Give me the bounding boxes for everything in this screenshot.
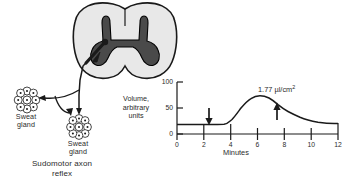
x-tick-label-0: 0 bbox=[169, 141, 185, 148]
volume-annotation: 1.77 µl/cm2 bbox=[258, 84, 295, 94]
x-tick-label-6: 6 bbox=[250, 141, 266, 148]
y-tick-label-0: 0 bbox=[153, 130, 173, 137]
x-tick-label-10: 10 bbox=[303, 141, 319, 148]
stimulus-arrow-down bbox=[205, 108, 212, 125]
sweat-volume-chart bbox=[0, 0, 350, 189]
x-tick-label-8: 8 bbox=[276, 141, 292, 148]
sweat-volume-curve bbox=[177, 96, 338, 125]
volume-annotation-text: 1.77 µl/cm bbox=[258, 85, 292, 94]
x-axis-label: Minutes bbox=[196, 148, 276, 157]
x-tick-label-2: 2 bbox=[196, 141, 212, 148]
volume-annotation-exponent: 2 bbox=[292, 84, 295, 90]
x-tick-label-4: 4 bbox=[223, 141, 239, 148]
y-tick-label-100: 100 bbox=[153, 78, 173, 85]
sudomotor-axon-reflex-figure: Sweat gland Sweat gland Sudomotor axon r… bbox=[0, 0, 350, 189]
y-tick-label-50: 50 bbox=[153, 104, 173, 111]
x-tick-label-12: 12 bbox=[330, 141, 346, 148]
